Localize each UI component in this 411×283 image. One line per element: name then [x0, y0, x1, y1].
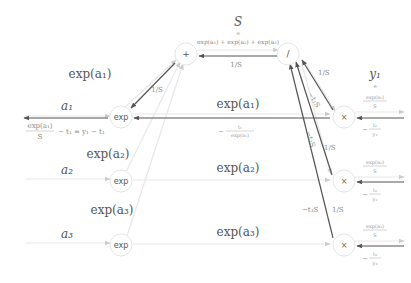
one-over-S-exp1: 1/S: [151, 86, 163, 94]
svg-text:−: −: [362, 191, 368, 199]
grad-a1: exp(a₁) S − t₁ = y₁ − t₁: [26, 122, 105, 141]
svg-text:S: S: [373, 168, 377, 174]
svg-text:y₃: y₃: [372, 260, 378, 267]
a3-label: a₃: [61, 227, 73, 241]
mul2-backward-value: − t₂ y₂: [362, 187, 381, 203]
diag3-over-S: 1/S: [332, 206, 344, 214]
S-definition: exp(a₁) + exp(a₂) + exp(a₃): [197, 38, 279, 46]
S-equals: =: [236, 30, 240, 36]
svg-text:exp: exp: [114, 241, 129, 250]
y1-equals: =: [373, 83, 377, 89]
exp-a2-label: exp(a₂): [87, 147, 130, 161]
svg-text:exp(a₃): exp(a₃): [366, 223, 384, 230]
svg-text:− t₁ = y₁ − t₁: − t₁ = y₁ − t₁: [58, 128, 105, 136]
svg-text:−: −: [362, 255, 368, 263]
svg-text:×: ×: [341, 177, 348, 186]
mul1-backward-value: − t₁ y₁: [362, 122, 381, 138]
diag2-over-S: 1/S: [324, 144, 336, 152]
mul2-forward-value: exp(a₂) S: [363, 159, 387, 174]
exp-node-3: exp: [110, 234, 132, 256]
svg-text:×: ×: [341, 113, 348, 122]
exp-a1-label: exp(a₁): [69, 67, 112, 81]
svg-text:+: +: [182, 49, 190, 59]
S-label: S: [234, 15, 242, 29]
diag1-over-S: 1/S: [318, 69, 330, 77]
exp-a3-mid-label: exp(a₃): [217, 225, 260, 239]
diag3-t3S: −t₃S: [302, 206, 318, 214]
svg-text:y₂: y₂: [372, 196, 378, 203]
svg-text:exp(a₁): exp(a₁): [231, 132, 249, 139]
mul3-forward-value: exp(a₃) S: [363, 223, 387, 238]
multiply-node-1: ×: [333, 106, 355, 128]
svg-text:exp: exp: [114, 177, 129, 186]
exp-a1-mid-label: exp(a₁): [217, 97, 260, 111]
svg-text:t₂: t₂: [373, 187, 377, 193]
svg-text:exp(a₁): exp(a₁): [366, 94, 384, 101]
multiply-node-2: ×: [333, 170, 355, 192]
exp-a2-mid-label: exp(a₂): [217, 161, 260, 175]
multiply-node-3: ×: [333, 234, 355, 256]
svg-text:t₃: t₃: [373, 251, 377, 257]
computational-graph: exp exp exp + / × × × S = exp(a₁) + exp(…: [0, 0, 411, 283]
one-over-S-top: 1/S: [230, 61, 242, 69]
svg-text:y₁: y₁: [372, 131, 378, 138]
grad-mid: − t₁ exp(a₁): [218, 124, 254, 139]
a1-label: a₁: [61, 99, 73, 113]
svg-text:S: S: [38, 133, 43, 141]
svg-text:S: S: [373, 103, 377, 109]
mul3-backward-value: − t₃ y₃: [362, 251, 381, 267]
a2-label: a₂: [61, 163, 73, 177]
mul1-forward-value: exp(a₁) S: [363, 94, 387, 109]
svg-text:exp(a₂): exp(a₂): [366, 159, 384, 166]
backward-edges: [24, 56, 404, 246]
svg-text:t₁: t₁: [238, 124, 242, 130]
svg-text:S: S: [373, 232, 377, 238]
svg-text:−: −: [362, 126, 368, 134]
svg-text:−: −: [218, 128, 224, 136]
divide-node: /: [277, 43, 299, 65]
svg-text:exp(a₁): exp(a₁): [27, 122, 52, 130]
exp-node-2: exp: [110, 170, 132, 192]
exp-node-1: exp: [110, 106, 132, 128]
diag2-t2S: −t₂S: [304, 130, 317, 148]
exp-a3-label: exp(a₃): [91, 203, 134, 217]
svg-text:exp: exp: [114, 113, 129, 122]
y1-label: y₁: [368, 67, 381, 81]
svg-text:×: ×: [341, 241, 348, 250]
sum-node: +: [175, 43, 197, 65]
svg-text:t₁: t₁: [373, 122, 377, 128]
